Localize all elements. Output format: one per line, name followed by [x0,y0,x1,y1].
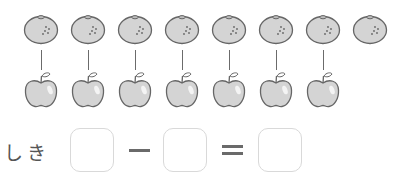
orange-icon [23,13,59,45]
connector-line [41,50,43,70]
minus-sign [129,149,150,152]
equals-sign-top [222,145,243,148]
connector-line [135,50,137,70]
connector-line [276,50,278,70]
connector-line [229,50,231,70]
equals-sign-bottom [222,152,243,155]
answer-box-3[interactable] [258,128,302,172]
apple-icon [23,71,59,109]
apple-icon [258,71,294,109]
orange-icon [117,13,153,45]
apple-icon [211,71,247,109]
equation-label: しき [4,138,50,165]
orange-icon [70,13,106,45]
connector-line [88,50,90,70]
apple-icon [70,71,106,109]
apple-icon [164,71,200,109]
answer-box-1[interactable] [70,128,114,172]
orange-icon [305,13,341,45]
orange-icon [258,13,294,45]
orange-icon [164,13,200,45]
connector-line [323,50,325,70]
apple-icon [117,71,153,109]
connector-line [182,50,184,70]
apple-icon [305,71,341,109]
orange-icon [352,13,388,45]
orange-icon [211,13,247,45]
answer-box-2[interactable] [163,128,207,172]
